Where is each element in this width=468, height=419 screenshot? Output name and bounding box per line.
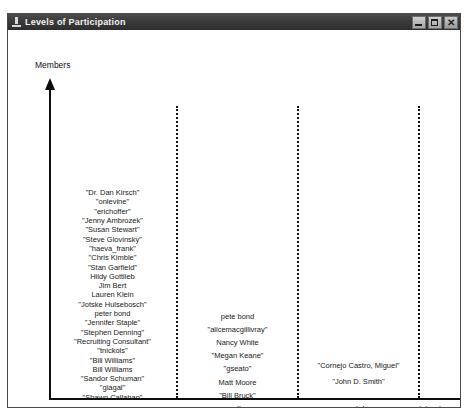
- member-entry: "tnickols": [49, 346, 176, 355]
- application-icon: [12, 17, 21, 28]
- member-entry: "Jenny Ambrozek": [49, 216, 176, 225]
- window-controls: ✕: [412, 16, 458, 29]
- member-entry: pete bond: [178, 310, 297, 323]
- member-entry: peter bond: [49, 309, 176, 318]
- x-axis-tick-labels: Low Medium High Participation: [49, 405, 460, 407]
- member-entry: "gseato": [178, 362, 297, 375]
- member-entry: Nancy White: [178, 336, 297, 349]
- member-entry: "Bill Bruck": [178, 389, 297, 402]
- member-entry: "Jennifer Staple": [49, 318, 176, 327]
- member-entry: "Shawn Callahan": [49, 393, 176, 402]
- application-window: Levels of Participation ✕ Members "Dr. D…: [7, 13, 461, 408]
- member-entry: Hildy Gottlieb: [49, 272, 176, 281]
- minimize-button[interactable]: [412, 16, 426, 29]
- member-entry: "Chris Kimble": [49, 253, 176, 262]
- member-entry: Lauren Klein: [49, 290, 176, 299]
- member-entry: "erichoffer": [49, 207, 176, 216]
- member-entry: "Stephen Denning": [49, 328, 176, 337]
- x-axis-label: Participation: [393, 405, 460, 407]
- member-entry: "Cornejo Castro, Miguel": [299, 358, 418, 374]
- minimize-icon: [415, 24, 422, 26]
- member-entry: "Susan Stewart": [49, 225, 176, 234]
- member-entry: "giagal": [49, 383, 176, 392]
- member-column-medium: pete bond"alicemacgillivray"Nancy White"…: [178, 310, 297, 402]
- divider-high-participation: [418, 106, 420, 398]
- member-entry: "Stan Garfield": [49, 263, 176, 272]
- member-column-low: "Dr. Dan Kirsch""onlevine""erichoffer""J…: [49, 188, 176, 402]
- member-entry: "Bill Williams": [49, 356, 176, 365]
- member-entry: "Steve Glovinsky": [49, 235, 176, 244]
- maximize-icon: [431, 19, 438, 26]
- member-entry: "Jotske Hulsebosch": [49, 300, 176, 309]
- member-entry: "John D. Smith": [299, 374, 418, 390]
- close-button[interactable]: ✕: [444, 16, 458, 29]
- close-icon: ✕: [445, 17, 457, 28]
- member-entry: "Recruiting Consultant": [49, 337, 176, 346]
- member-entry: Jim Bert: [49, 281, 176, 290]
- member-entry: "Megan Keane": [178, 349, 297, 362]
- y-axis-label: Members: [35, 60, 70, 70]
- divider-medium-high: [297, 106, 299, 398]
- title-bar[interactable]: Levels of Participation ✕: [8, 14, 460, 30]
- x-tick-medium: Medium: [178, 405, 297, 407]
- member-column-high: "Cornejo Castro, Miguel""John D. Smith": [299, 358, 418, 390]
- member-entry: "onlevine": [49, 197, 176, 206]
- member-entry: Matt Moore: [178, 376, 297, 389]
- member-entry: "Dr. Dan Kirsch": [49, 188, 176, 197]
- member-entry: "Sandor Schuman": [49, 374, 176, 383]
- member-entry: "haeva_frank": [49, 244, 176, 253]
- member-entry: "alicemacgillivray": [178, 323, 297, 336]
- x-tick-low: Low: [49, 405, 176, 407]
- member-entry: Bill Williams: [49, 365, 176, 374]
- window-title: Levels of Participation: [25, 14, 126, 30]
- maximize-button[interactable]: [428, 16, 442, 29]
- chart-canvas: Members "Dr. Dan Kirsch""onlevine""erich…: [8, 30, 460, 407]
